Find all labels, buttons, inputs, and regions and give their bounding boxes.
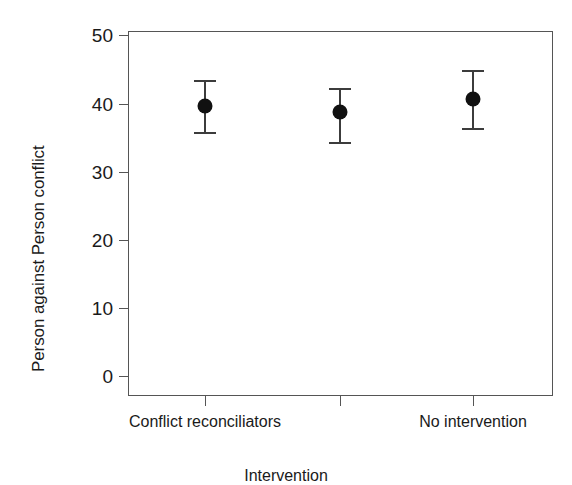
data-point-2: [333, 105, 348, 120]
y-tick-label-10-wrap: 10: [0, 299, 113, 318]
y-tick-label-50-wrap: 50: [0, 26, 113, 45]
errorbar-cap-lower-3: [462, 128, 484, 130]
y-tick-mark-50: [119, 35, 128, 36]
x-tick-mark-1: [205, 396, 206, 406]
y-tick-label-0-wrap: 0: [0, 367, 113, 386]
plot-area: [128, 31, 553, 396]
errorbar-cap-lower-1: [194, 132, 216, 134]
y-tick-mark-20: [119, 240, 128, 241]
y-tick-label-0: 0: [3, 367, 113, 386]
errorbar-cap-upper-3: [462, 70, 484, 72]
y-tick-mark-40: [119, 104, 128, 105]
errorbar-cap-upper-1: [194, 80, 216, 82]
data-point-3: [466, 92, 481, 107]
y-tick-label-20: 20: [3, 231, 113, 250]
y-tick-mark-0: [119, 376, 128, 377]
y-tick-label-30: 30: [3, 163, 113, 182]
x-tick-mark-2: [340, 396, 341, 406]
y-tick-mark-30: [119, 172, 128, 173]
x-tick-mark-3: [473, 396, 474, 406]
y-tick-label-10: 10: [3, 299, 113, 318]
y-tick-label-40-wrap: 40: [0, 95, 113, 114]
y-tick-mark-10: [119, 308, 128, 309]
x-axis-title: Intervention: [0, 466, 572, 485]
x-tick-label-conflict-reconciliators: Conflict reconciliators: [129, 412, 281, 432]
y-tick-label-50: 50: [3, 26, 113, 45]
y-tick-label-40: 40: [3, 95, 113, 114]
errorbar-cap-lower-2: [329, 142, 351, 144]
data-point-1: [198, 99, 213, 114]
errorbar-cap-upper-2: [329, 88, 351, 90]
x-tick-label-no-intervention: No intervention: [419, 412, 527, 432]
y-tick-label-20-wrap: 20: [0, 231, 113, 250]
y-tick-label-30-wrap: 30: [0, 163, 113, 182]
